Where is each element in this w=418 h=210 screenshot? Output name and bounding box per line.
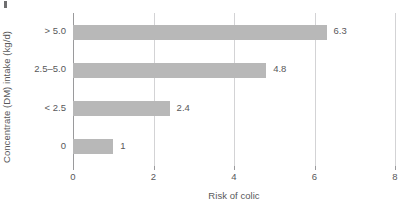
x-axis-tick-label: 2 [134,170,174,183]
bar [73,139,113,154]
x-axis-title: Risk of colic [73,190,395,202]
category-label: 2.5–5.0 [34,61,66,77]
bar [73,101,170,116]
bar-value-label: 6.3 [334,23,347,39]
bar-row: < 2.52.4 [73,90,395,128]
x-axis-tick-label: 8 [375,170,415,183]
bar-row: 2.5–5.04.8 [73,51,395,89]
gridline [395,13,396,166]
bar-row: > 5.06.3 [73,13,395,51]
plot-area: > 5.06.32.5–5.04.8< 2.52.401 [73,13,395,166]
bar-value-label: 4.8 [273,61,286,77]
bar-chart-figure: Concentrate (DM) intake (kg/d) 02468 > 5… [0,0,418,210]
bar-value-label: 2.4 [177,100,190,116]
category-label: < 2.5 [45,100,66,116]
bar [73,25,327,40]
bar-row: 01 [73,128,395,166]
x-axis-tick-label: 0 [53,170,93,183]
x-axis-tick-label: 6 [295,170,335,183]
bar-value-label: 1 [120,138,125,154]
crop-artifact-mark [4,1,7,8]
y-axis-title: Concentrate (DM) intake (kg/d) [0,9,14,185]
x-axis-tick-label: 4 [214,170,254,183]
category-label: > 5.0 [45,23,66,39]
category-label: 0 [61,138,66,154]
bar [73,63,266,78]
